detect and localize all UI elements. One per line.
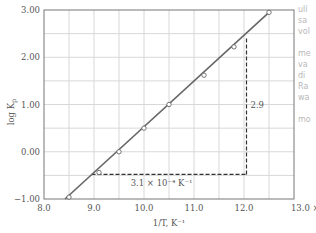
y-axis-label: log Kp [6,99,18,126]
data-point [232,45,236,49]
data-point [202,73,206,77]
y-axis-label-main: log K [6,102,16,125]
x-tick-label: 8.0 [37,203,51,213]
margin-handwriting: ulí sa vol me va di Ra wa mo [298,4,311,125]
x-tick-label: 10.0 [135,203,154,213]
svg-text:log Kp: log Kp [6,99,18,126]
y-tick-label: 3.00 [21,5,40,15]
y-tick-label: 0.00 [21,147,40,157]
data-point [117,150,121,154]
data-point [167,102,171,106]
x-axis-label: 1/T, K⁻¹ [153,218,185,228]
run-annotation: 3.1 × 10⁻⁴ K⁻¹ [131,178,193,188]
y-tick-label: 2.00 [21,52,40,62]
x-tick-label: 9.0 [87,203,101,213]
data-point [97,170,101,174]
y-tick-label: −1.00 [14,194,40,204]
data-point [142,126,146,130]
y-axis-ticks: 3.002.001.000.00−1.00 [14,5,40,204]
x-tick-label: 12.0 [235,203,254,213]
data-point [267,10,271,14]
chart: 3.002.001.000.00−1.00 8.09.010.011.012.0… [0,0,316,233]
x-tick-label: 13.0 × 10⁻⁴ [291,203,316,213]
data-point [67,195,71,199]
y-tick-label: 1.00 [21,100,40,110]
y-axis-label-sub: p [10,99,18,103]
x-tick-label: 11.0 [185,203,204,213]
x-axis-ticks: 8.09.010.011.012.013.0 × 10⁻⁴ [37,203,316,213]
rise-annotation: 2.9 [251,100,265,110]
